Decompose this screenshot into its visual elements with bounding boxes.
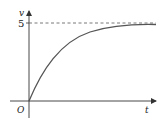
graph-canvas: v 5 O t <box>0 0 168 120</box>
origin-label: O <box>17 105 25 115</box>
x-axis-label: t <box>145 105 149 115</box>
y-axis-label: v <box>19 8 24 18</box>
exponential-curve <box>29 24 156 101</box>
asymptote-value-label: 5 <box>18 18 24 29</box>
